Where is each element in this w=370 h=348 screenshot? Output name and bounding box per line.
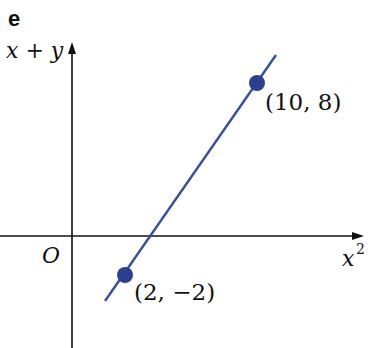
y-axis-arrow-icon: [68, 42, 76, 54]
x-axis-label-superscript: 2: [356, 241, 365, 257]
graph-line: [105, 55, 276, 301]
x-axis-arrow-icon: [352, 232, 364, 240]
point-label-10-8: (10, 8): [265, 89, 341, 115]
origin-label: O: [42, 243, 60, 268]
graph: x + y O x 2 (2, −2) (10, 8): [0, 0, 370, 348]
point-label-2-neg2: (2, −2): [134, 279, 215, 305]
y-axis-label: x + y: [6, 38, 64, 63]
x-axis-label: x: [342, 246, 355, 271]
point-2-neg2: [117, 267, 133, 283]
point-10-8: [249, 75, 265, 91]
